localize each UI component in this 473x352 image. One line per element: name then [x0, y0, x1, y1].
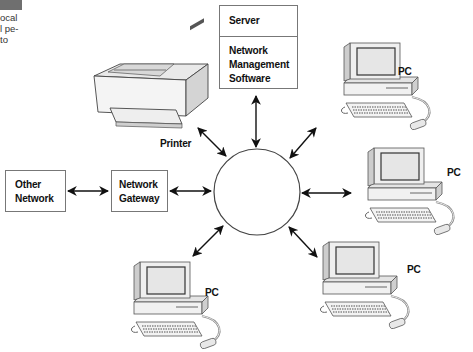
- network-gateway-box: Network Gateway: [111, 170, 168, 212]
- gateway-line: Gateway: [119, 191, 159, 205]
- server-box: Server Network Management Software: [219, 5, 298, 89]
- pc-illustration-right: [365, 148, 453, 235]
- printer-illustration: [94, 18, 208, 128]
- pc-label-bottom-right: PC: [407, 262, 421, 276]
- pc-illustration-bottom-right: [320, 242, 408, 329]
- pc-illustration-top-right: [341, 43, 429, 130]
- pc-label-bottom-left: PC: [205, 285, 219, 299]
- gateway-line: Network: [119, 177, 158, 191]
- printer-label: Printer: [160, 136, 191, 150]
- network-diagram: ocal l pe- to: [0, 0, 473, 352]
- server-line: Network: [229, 43, 268, 57]
- server-line: Management: [229, 57, 289, 71]
- pc-label-right: PC: [447, 165, 461, 179]
- other-network-box: Other Network: [5, 170, 66, 212]
- hub-circle: [214, 149, 300, 235]
- server-divider: [220, 36, 297, 37]
- pc-label-top-right: PC: [398, 64, 412, 78]
- server-line: Software: [229, 71, 270, 85]
- pc-illustration-bottom-left: [131, 262, 219, 349]
- other-network-line: Other: [15, 177, 41, 191]
- server-title: Server: [229, 13, 259, 27]
- other-network-line: Network: [15, 191, 54, 205]
